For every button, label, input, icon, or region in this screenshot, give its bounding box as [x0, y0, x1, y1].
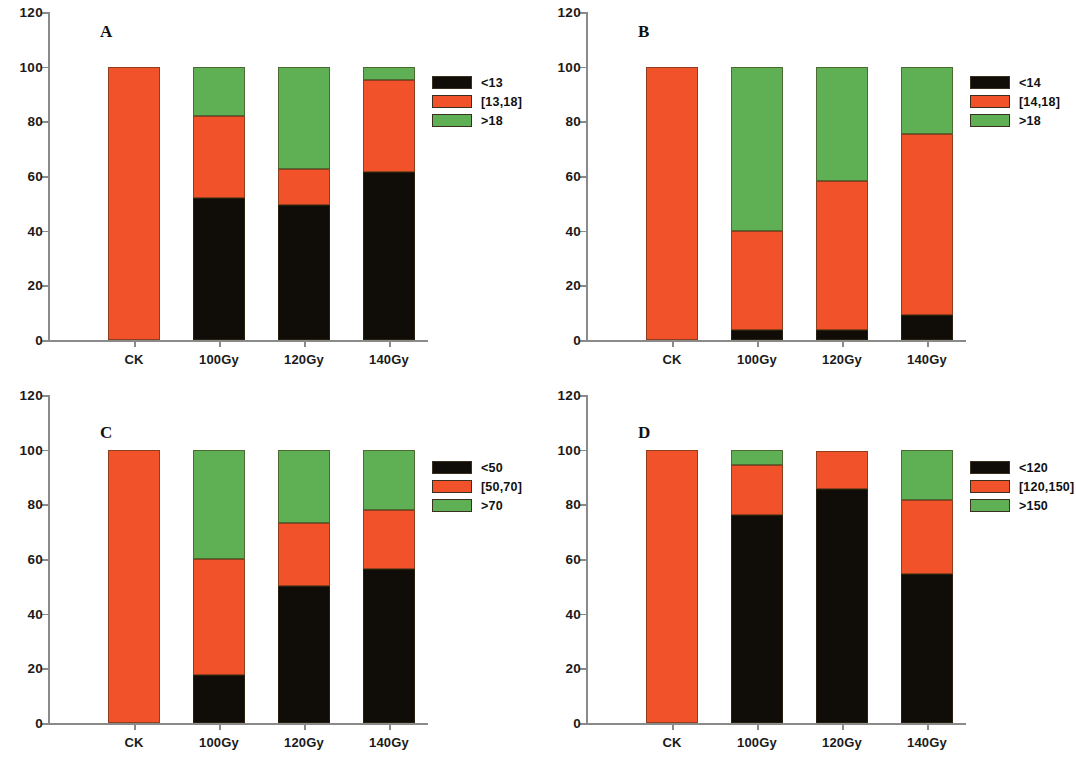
- y-axis-tick-label: 20: [565, 278, 581, 293]
- bar-ck: [646, 395, 698, 723]
- bar-140gy: [901, 12, 953, 340]
- y-axis-tick-label: 0: [573, 333, 581, 348]
- x-axis-tick: [134, 340, 136, 347]
- x-axis-tick: [757, 340, 759, 347]
- y-axis-tick-label: 20: [27, 661, 43, 676]
- legend-label: [14,18]: [1019, 95, 1060, 109]
- y-axis-tick-label: 100: [20, 59, 43, 74]
- legend-item: >150: [970, 497, 1074, 514]
- bar-segment: [363, 67, 415, 81]
- bar-100gy: [731, 395, 783, 723]
- bar-segment: [646, 450, 698, 723]
- bar-segment: [901, 450, 953, 501]
- bar-segment: [731, 515, 783, 723]
- bar-segment: [901, 67, 953, 134]
- bar-100gy: [193, 395, 245, 723]
- x-axis-line: [48, 723, 428, 725]
- bar-segment: [108, 450, 160, 723]
- x-axis-tick-label: 120Gy: [284, 352, 324, 367]
- x-axis-tick: [389, 340, 391, 347]
- legend-a: <13[13,18]>18: [432, 74, 522, 131]
- legend-item: [50,70]: [432, 478, 522, 495]
- y-axis-tick-label: 120: [20, 5, 43, 20]
- y-axis-tick-label: 120: [20, 388, 43, 403]
- y-axis-tick-label: 40: [27, 606, 43, 621]
- plot-area-b: 020406080100120CK100Gy120Gy140Gy: [586, 12, 966, 340]
- x-axis-tick: [927, 340, 929, 347]
- y-axis-tick-label: 100: [558, 442, 581, 457]
- x-axis-tick: [842, 723, 844, 730]
- y-axis-tick-label: 100: [20, 442, 43, 457]
- bar-ck: [108, 395, 160, 723]
- y-axis-tick-label: 40: [27, 223, 43, 238]
- legend-swatch-icon: [432, 499, 472, 512]
- bar-segment: [901, 574, 953, 723]
- legend-swatch-icon: [432, 76, 472, 89]
- y-axis-tick-label: 120: [558, 388, 581, 403]
- bar-segment: [363, 569, 415, 723]
- bar-segment: [193, 675, 245, 723]
- legend-label: [120,150]: [1019, 480, 1074, 494]
- legend-label: >150: [1019, 499, 1048, 513]
- bar-100gy: [731, 12, 783, 340]
- bar-segment: [193, 198, 245, 340]
- bar-segment: [731, 465, 783, 516]
- legend-swatch-icon: [970, 480, 1010, 493]
- bar-segment: [816, 451, 868, 489]
- bar-segment: [816, 181, 868, 330]
- bar-segment: [278, 67, 330, 170]
- legend-swatch-icon: [432, 114, 472, 127]
- legend-item: <120: [970, 459, 1074, 476]
- bar-segment: [278, 169, 330, 205]
- legend-label: >70: [481, 499, 503, 513]
- panel-c: C020406080100120CK100Gy120Gy140Gy<50[50,…: [0, 383, 538, 766]
- bar-segment: [193, 450, 245, 559]
- x-axis-tick-label: 100Gy: [737, 352, 777, 367]
- x-axis-tick: [757, 723, 759, 730]
- x-axis-tick-label: 140Gy: [369, 352, 409, 367]
- legend-swatch-icon: [432, 461, 472, 474]
- legend-item: <13: [432, 74, 522, 91]
- y-axis-tick-label: 0: [573, 716, 581, 731]
- bar-segment: [363, 80, 415, 172]
- bar-100gy: [193, 12, 245, 340]
- bar-segment: [731, 231, 783, 331]
- legend-label: <120: [1019, 461, 1048, 475]
- bar-segment: [901, 500, 953, 574]
- bar-segment: [901, 134, 953, 316]
- x-axis-tick-label: 100Gy: [199, 735, 239, 750]
- bar-120gy: [816, 12, 868, 340]
- bar-segment: [816, 489, 868, 723]
- x-axis-tick-label: 140Gy: [907, 352, 947, 367]
- x-axis-tick: [134, 723, 136, 730]
- y-axis-tick-label: 80: [27, 497, 43, 512]
- legend-swatch-icon: [970, 76, 1010, 89]
- plot-area-c: 020406080100120CK100Gy120Gy140Gy: [48, 395, 428, 723]
- y-axis-tick-label: 40: [565, 606, 581, 621]
- x-axis-line: [48, 340, 428, 342]
- legend-item: >18: [970, 112, 1060, 129]
- bar-ck: [108, 12, 160, 340]
- y-axis-tick-label: 0: [35, 333, 43, 348]
- y-axis-line: [586, 12, 588, 340]
- bar-140gy: [901, 395, 953, 723]
- bar-segment: [278, 205, 330, 340]
- legend-item: <14: [970, 74, 1060, 91]
- bar-segment: [193, 67, 245, 116]
- y-axis-tick-label: 60: [27, 169, 43, 184]
- legend-item: >70: [432, 497, 522, 514]
- y-axis-tick-label: 60: [565, 552, 581, 567]
- legend-swatch-icon: [970, 114, 1010, 127]
- x-axis-tick: [672, 723, 674, 730]
- x-axis-tick-label: CK: [662, 352, 681, 367]
- x-axis-tick-label: CK: [124, 352, 143, 367]
- y-axis-tick-label: 60: [27, 552, 43, 567]
- legend-c: <50[50,70]>70: [432, 459, 522, 516]
- plot-area-d: 020406080100120CK100Gy120Gy140Gy: [586, 395, 966, 723]
- y-axis-tick-label: 20: [27, 278, 43, 293]
- legend-label: >18: [481, 114, 503, 128]
- y-axis-tick-label: 80: [27, 114, 43, 129]
- bar-segment: [816, 330, 868, 340]
- y-axis-line: [48, 12, 50, 340]
- legend-item: [120,150]: [970, 478, 1074, 495]
